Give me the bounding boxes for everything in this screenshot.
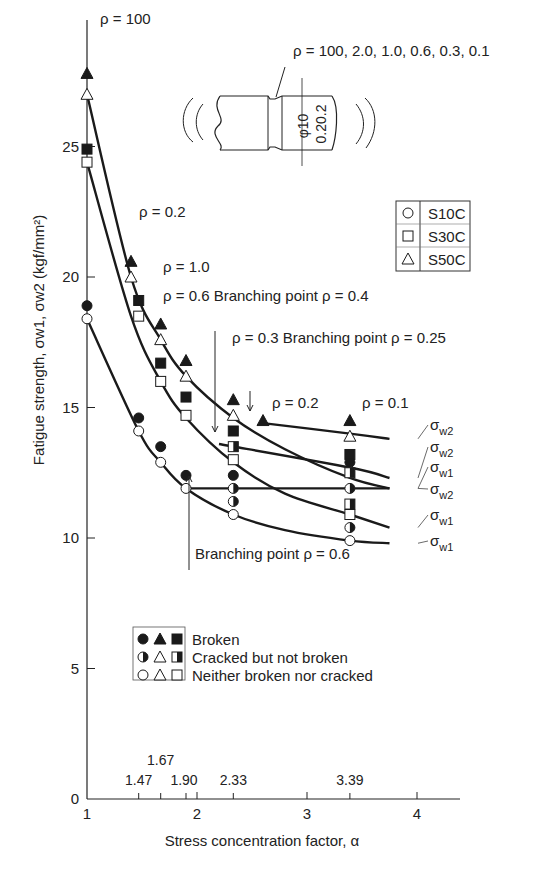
- data-point: [134, 413, 144, 423]
- data-point: [134, 295, 144, 305]
- data-point: [156, 442, 166, 452]
- data-point: [81, 88, 93, 99]
- data-point: [344, 415, 356, 426]
- x-tick-label: 4: [413, 805, 421, 822]
- axes: 051015202512341.471.671.902.333.39Stress…: [30, 20, 460, 849]
- data-point: [180, 355, 192, 366]
- curve-label: σw1: [430, 532, 453, 553]
- data-point: [134, 426, 144, 436]
- x-axis-label: Stress concentration factor, α: [165, 832, 360, 849]
- data-point: [228, 455, 238, 465]
- curve-label: σw1: [430, 506, 453, 527]
- data-point: [228, 470, 238, 480]
- svg-text:Broken: Broken: [192, 631, 240, 648]
- data-point: [81, 67, 93, 78]
- legend-entry: Neither broken nor cracked: [138, 667, 373, 684]
- data-point: [155, 318, 167, 329]
- minor-x-tick-label: 1.90: [170, 772, 197, 788]
- y-tick-label: 25: [62, 138, 79, 155]
- fit-curve: [263, 423, 390, 439]
- data-point: [228, 426, 238, 436]
- data-point: [134, 311, 144, 321]
- state-legend: BrokenCracked but not brokenNeither brok…: [133, 627, 373, 684]
- svg-text:S50C: S50C: [428, 251, 466, 268]
- fit-curve: [219, 444, 390, 478]
- data-point: [345, 510, 355, 520]
- data-point: [228, 442, 238, 452]
- data-point: [82, 157, 92, 167]
- annotation: ρ = 100: [100, 10, 151, 27]
- minor-x-tick-label: 1.67: [147, 752, 174, 768]
- y-tick-label: 0: [71, 790, 79, 807]
- data-point: [345, 468, 355, 478]
- minor-x-tick-label: 1.47: [125, 772, 152, 788]
- minor-x-tick-label: 3.39: [336, 772, 363, 788]
- y-tick-label: 20: [62, 268, 79, 285]
- svg-text:S10C: S10C: [428, 205, 466, 222]
- x-tick-label: 2: [193, 805, 201, 822]
- curve-label: σw2: [430, 416, 453, 437]
- y-tick-label: 5: [71, 660, 79, 677]
- data-point: [227, 394, 239, 405]
- data-point: [345, 483, 355, 493]
- annotation: Branching point ρ = 0.6: [195, 545, 350, 562]
- data-point: [228, 483, 238, 493]
- data-point: [82, 301, 92, 311]
- data-point: [156, 457, 166, 467]
- data-point: [82, 314, 92, 324]
- data-point: [181, 392, 191, 402]
- annotation: ρ = 0.2: [272, 394, 318, 411]
- x-tick-label: 1: [83, 805, 91, 822]
- legend-entry: Cracked but not broken: [138, 649, 348, 666]
- annotation: ρ = 0.1: [362, 394, 408, 411]
- svg-text:S30C: S30C: [428, 228, 466, 245]
- data-point: [228, 510, 238, 520]
- specimen-depth: 0.20.2: [313, 104, 329, 143]
- data-point: [181, 410, 191, 420]
- y-tick-label: 15: [62, 399, 79, 416]
- curve-label: σw1: [430, 458, 453, 479]
- material-legend: S10CS30CS50C: [396, 201, 470, 271]
- data-point: [345, 449, 355, 459]
- data-point: [228, 496, 238, 506]
- annotation: ρ = 1.0: [163, 258, 209, 275]
- specimen-rho-label: ρ = 100, 2.0, 1.0, 0.6, 0.3, 0.1: [293, 42, 490, 59]
- fatigue-strength-chart: 051015202512341.471.671.902.333.39Stress…: [0, 0, 547, 869]
- data-point: [156, 376, 166, 386]
- data-point: [155, 334, 167, 345]
- annotation: ρ = 0.3 Branching point ρ = 0.25: [232, 329, 446, 346]
- y-tick-label: 10: [62, 529, 79, 546]
- data-point: [82, 144, 92, 154]
- minor-x-tick-label: 2.33: [220, 772, 247, 788]
- legend-entry: Broken: [138, 631, 240, 648]
- x-tick-label: 3: [303, 805, 311, 822]
- curve-label: σw2: [430, 438, 453, 459]
- specimen-diagram: ρ = 100, 2.0, 1.0, 0.6, 0.3, 0.1φ100.20.…: [183, 42, 489, 166]
- specimen-diameter: φ10: [295, 113, 311, 138]
- svg-text:Cracked but not broken: Cracked but not broken: [192, 649, 348, 666]
- data-point: [345, 523, 355, 533]
- data-point: [344, 430, 356, 441]
- annotation: ρ = 0.2: [139, 203, 185, 220]
- annotation: ρ = 0.6 Branching point ρ = 0.4: [163, 287, 369, 304]
- svg-text:Neither broken nor cracked: Neither broken nor cracked: [192, 667, 373, 684]
- data-point: [257, 415, 269, 426]
- data-point: [156, 358, 166, 368]
- data-point: [125, 271, 137, 282]
- y-axis-label: Fatigue strength, σw1, σw2 (kgf/mm²): [30, 215, 47, 465]
- data-point: [345, 499, 355, 509]
- curve-label: σw2: [430, 480, 453, 501]
